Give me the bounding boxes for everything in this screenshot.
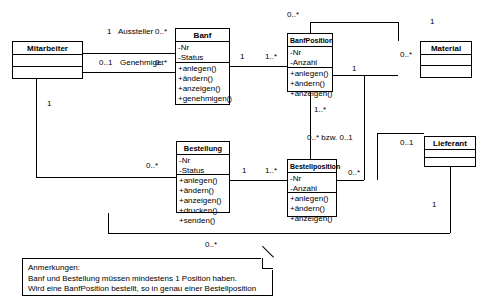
operation-item: +anzeigen() xyxy=(179,196,228,206)
multiplicity-banfposition-bestellposition-upper: 1..* xyxy=(314,105,326,114)
class-attributes-banfposition: -Nr -Anzahl xyxy=(288,47,332,68)
operation-item: +anlegen() xyxy=(290,194,335,204)
attribute-item: -Anzahl xyxy=(290,58,331,68)
note-fold-corner xyxy=(262,258,273,269)
multiplicity-banfposition-material: 0..* xyxy=(287,10,299,19)
multiplicity-position-to-banf: 1..* xyxy=(265,52,277,61)
assoc-line-banfposition-bestellposition xyxy=(310,92,311,159)
operation-item: +drucken() xyxy=(179,206,228,216)
multiplicity-bestellposition-lieferant-right: 0..* xyxy=(348,168,360,177)
operation-item: +ändern() xyxy=(290,204,335,214)
class-name-lieferant: Lieferant xyxy=(425,137,475,150)
attribute-item: -Nr xyxy=(290,174,335,184)
role-label-aussteller: Aussteller xyxy=(118,27,153,36)
note-anmerkungen: Anmerkungen: Banf und Bestellung müssen … xyxy=(22,258,273,296)
multiplicity-bestellung-to-position: 1 xyxy=(242,166,246,175)
class-operations-banf: +anlegen() +ändern() +anzeigen() +genehm… xyxy=(176,63,229,105)
assoc-line-lieferant-bestellung-up xyxy=(108,213,109,233)
multiplicity-bestellung-lieferant: 0..* xyxy=(205,240,217,249)
multiplicity-bestellposition-material: 1 xyxy=(352,64,356,73)
multiplicity-material-banfposition: 1 xyxy=(430,17,434,26)
class-name-material: Material xyxy=(421,42,471,55)
operation-item: +anzeigen() xyxy=(178,84,228,94)
assoc-line-mitarbeiter-bestellung-vertical xyxy=(36,78,37,177)
attribute-item: -Status xyxy=(178,53,228,63)
note-line: Wird eine BanfPosition bestellt, so in g… xyxy=(28,284,256,295)
class-attributes-bestellposition: -Nr -Anzahl xyxy=(288,173,336,193)
operation-item: +ändern() xyxy=(179,186,228,196)
class-box-bestellposition[interactable]: Bestellposition -Nr -Anzahl +anlegen() +… xyxy=(287,159,337,217)
class-operations-material xyxy=(421,66,471,78)
multiplicity-position-to-bestellung: 1..* xyxy=(265,166,277,175)
attribute-item: -Nr xyxy=(290,48,331,58)
assoc-line-bestellung-bestellposition xyxy=(230,180,287,181)
multiplicity-banf-aussteller: 0..* xyxy=(155,27,167,36)
attribute-item: -Nr xyxy=(178,43,228,53)
multiplicity-bestellposition-lieferant: 0..1 xyxy=(400,138,413,147)
class-operations-bestellung: +anlegen() +ändern() +anzeigen() +drucke… xyxy=(177,175,229,213)
assoc-line-banf-banfposition xyxy=(230,66,287,67)
operation-item: +ändern() xyxy=(178,74,228,84)
class-operations-lieferant xyxy=(425,158,475,167)
multiplicity-mitarbeiter-aussteller: 1 xyxy=(107,27,111,36)
operation-item: +anlegen() xyxy=(178,64,228,74)
assoc-line-bestellposition-lieferant-horizontal xyxy=(377,133,424,134)
assoc-line-banfposition-right-stub xyxy=(333,75,364,76)
class-box-material[interactable]: Material xyxy=(420,41,472,78)
multiplicity-mitarbeiter-bestellung: 1 xyxy=(47,99,51,108)
class-box-bestellung[interactable]: Bestellung -Nr -Status +anlegen() +änder… xyxy=(176,141,230,213)
class-box-banf[interactable]: Banf -Nr -Status +anlegen() +ändern() +a… xyxy=(175,28,230,105)
class-name-mitarbeiter: Mitarbeiter xyxy=(13,42,82,55)
class-name-bestellposition: Bestellposition xyxy=(288,160,336,173)
assoc-line-banfposition-material-down xyxy=(398,22,399,41)
assoc-line-banfposition-material-across xyxy=(310,22,398,23)
class-attributes-bestellung: -Nr -Status xyxy=(177,155,229,175)
attribute-item: -Nr xyxy=(179,156,228,166)
operation-item: +ändern() xyxy=(290,79,331,89)
class-box-lieferant[interactable]: Lieferant xyxy=(424,136,476,167)
assoc-line-bestellposition-lieferant-vertical xyxy=(377,133,378,180)
class-operations-mitarbeiter xyxy=(13,67,82,78)
multiplicity-lieferant-bestellung: 1 xyxy=(432,200,436,209)
assoc-line-lieferant-bestellung-across xyxy=(108,233,450,234)
multiplicity-material-bestellposition: 0..* xyxy=(400,50,412,59)
note-fold-diagonal xyxy=(262,246,274,258)
multiplicity-banfposition-bestellposition-lower: 0..* bzw. 0..1 xyxy=(307,133,353,142)
class-box-mitarbeiter[interactable]: Mitarbeiter xyxy=(12,41,83,79)
class-attributes-material xyxy=(421,55,471,66)
multiplicity-banf-genehmiger: 0..* xyxy=(155,58,167,67)
operation-item: +anzeigen() xyxy=(290,214,335,224)
operation-item: +anlegen() xyxy=(290,69,331,79)
assoc-line-bestellposition-material-up xyxy=(364,75,365,180)
assoc-line-banfposition-material-up xyxy=(310,22,311,33)
operation-item: +anzeigen() xyxy=(290,89,331,99)
assoc-line-bestellposition-material-across xyxy=(337,180,364,181)
class-operations-bestellposition: +anlegen() +ändern() +anzeigen() xyxy=(288,193,336,217)
multiplicity-banf-to-position: 1 xyxy=(240,52,244,61)
class-name-banfposition: BanfPosition xyxy=(288,34,332,47)
assoc-line-mitarbeiter-bestellung-horizontal xyxy=(36,177,176,178)
note-content: Anmerkungen: Banf und Bestellung müssen … xyxy=(28,263,256,295)
operation-item: +senden() xyxy=(179,216,228,226)
assoc-line-mitarbeiter-banf-aussteller xyxy=(83,53,175,54)
class-name-bestellung: Bestellung xyxy=(177,142,229,155)
operation-item: +anlegen() xyxy=(179,176,228,186)
class-attributes-mitarbeiter xyxy=(13,55,82,67)
class-attributes-lieferant xyxy=(425,150,475,158)
class-box-banfposition[interactable]: BanfPosition -Nr -Anzahl +anlegen() +änd… xyxy=(287,33,333,92)
note-title: Anmerkungen: xyxy=(28,263,256,274)
multiplicity-bestellung-mitarbeiter: 0..* xyxy=(146,161,158,170)
assoc-line-mitarbeiter-banf-genehmiger xyxy=(83,72,175,73)
class-name-banf: Banf xyxy=(176,29,229,42)
note-line: Banf und Bestellung müssen mindestens 1 … xyxy=(28,274,256,285)
assoc-line-lieferant-bestellung-down xyxy=(450,166,451,233)
uml-class-diagram-canvas: Mitarbeiter Banf -Nr -Status +anlegen() … xyxy=(0,0,483,305)
assoc-line-material-stub xyxy=(364,75,398,76)
operation-item: +genehmigen() xyxy=(178,94,228,104)
multiplicity-mitarbeiter-genehmiger: 0..1 xyxy=(99,58,112,67)
class-attributes-banf: -Nr -Status xyxy=(176,42,229,63)
class-operations-banfposition: +anlegen() +ändern() +anzeigen() xyxy=(288,68,332,92)
